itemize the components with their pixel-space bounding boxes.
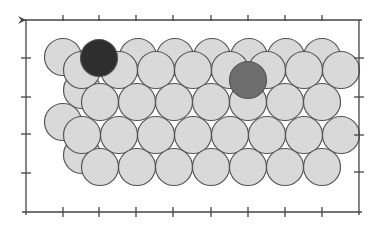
arrow-icon bbox=[18, 16, 26, 24]
substrate-atom bbox=[82, 84, 119, 121]
substrate-atom bbox=[267, 84, 304, 121]
substrate-atom bbox=[156, 149, 193, 186]
substrate-atom bbox=[101, 117, 138, 154]
substrate-atom bbox=[230, 149, 267, 186]
substrate-atom bbox=[138, 117, 175, 154]
substrate-atom bbox=[175, 52, 212, 89]
substrate-atom bbox=[82, 149, 119, 186]
substrate-atom bbox=[138, 52, 175, 89]
substrate-atom bbox=[286, 52, 323, 89]
diagram-canvas bbox=[0, 0, 380, 228]
substrate-atom bbox=[156, 84, 193, 121]
atomic-surface-diagram bbox=[0, 0, 380, 228]
substrate-atom bbox=[304, 149, 341, 186]
substrate-atom bbox=[193, 84, 230, 121]
substrate-atom bbox=[119, 84, 156, 121]
substrate-atom bbox=[249, 117, 286, 154]
substrate-atom bbox=[267, 149, 304, 186]
substrate-atom bbox=[119, 149, 156, 186]
substrate-atom bbox=[64, 117, 101, 154]
substrate-atom bbox=[212, 117, 249, 154]
substrate-atom bbox=[175, 117, 212, 154]
dark-adsorbate bbox=[81, 40, 118, 77]
substrate-atom bbox=[193, 149, 230, 186]
substrate-atom bbox=[304, 84, 341, 121]
substrate-atom bbox=[323, 52, 360, 89]
gray-adsorbate bbox=[230, 62, 267, 99]
substrate-atom bbox=[286, 117, 323, 154]
substrate-atom bbox=[323, 117, 360, 154]
